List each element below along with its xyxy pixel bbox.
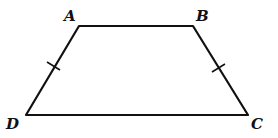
vertex-label-d: D: [5, 115, 19, 133]
vertex-label-c: C: [251, 115, 263, 133]
vertex-label-b: B: [195, 7, 209, 25]
vertex-label-a: A: [62, 7, 76, 25]
trapezoid-diagram: A B C D: [0, 0, 278, 138]
